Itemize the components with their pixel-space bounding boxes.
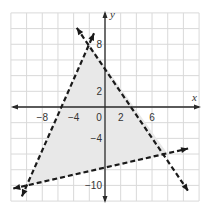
x-tick-label: 2 bbox=[118, 112, 124, 123]
origin-label: 0 bbox=[96, 112, 102, 123]
line-arrowhead-icon bbox=[182, 183, 188, 190]
x-tick-label: −8 bbox=[37, 112, 49, 123]
y-tick-label: −10 bbox=[85, 180, 102, 191]
y-tick-label: 2 bbox=[96, 86, 102, 97]
y-axis-bottom-arrow-icon bbox=[103, 196, 108, 203]
x-tick-label: 6 bbox=[149, 112, 155, 123]
y-axis-label: y bbox=[109, 8, 115, 20]
x-axis-label: x bbox=[191, 91, 197, 103]
y-tick-label: −4 bbox=[91, 133, 103, 144]
y-axis-top-arrow-icon bbox=[103, 11, 108, 18]
coordinate-plane: −8−402682−4−10 x y bbox=[0, 0, 208, 214]
x-axis-right-arrow-icon bbox=[194, 105, 201, 110]
x-tick-label: −4 bbox=[68, 112, 80, 123]
x-axis-left-arrow-icon bbox=[11, 105, 18, 110]
y-tick-label: 8 bbox=[96, 39, 102, 50]
